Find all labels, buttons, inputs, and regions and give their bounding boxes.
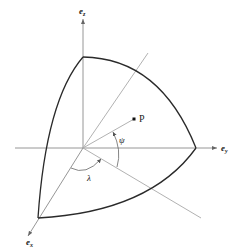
position-vector-line [83,119,134,148]
diagonal-guide-line [83,53,148,148]
octant-diagram: ez ey ex P ψ λ [0,0,237,249]
psi-label: ψ [119,135,125,145]
ex-label: ex [26,237,33,248]
psi-angle-arc [113,132,119,167]
ey-label: ey [221,143,228,154]
octant-edge-bottom [38,148,196,218]
ex-axis [28,148,83,236]
meridian-projection-line [83,148,201,218]
octant-edge-top [83,57,196,148]
octant-edge-left [38,57,83,218]
point-p-marker [133,118,136,121]
point-p-label: P [139,113,145,124]
ez-label: ez [79,6,86,17]
lambda-label: λ [86,173,91,183]
